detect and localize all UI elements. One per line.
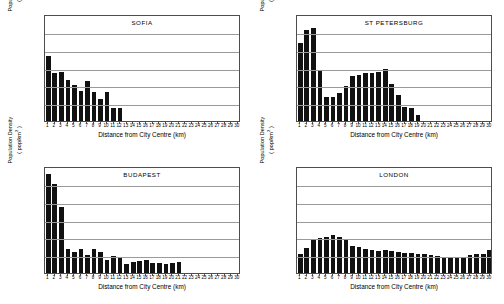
x-axis-tick-mark [132, 274, 133, 276]
x-axis-tick-mark [60, 122, 61, 124]
x-axis-tick-mark [217, 122, 218, 124]
x-axis-tick-mark [211, 122, 212, 124]
plot-area: ST PETERSBURG 050100150200250300 [296, 15, 492, 122]
bar [59, 72, 64, 121]
x-axis-tick-mark [224, 274, 225, 276]
x-axis-tick-mark [345, 122, 346, 124]
y-axis-label-line2: ( pop/km2 ) [14, 0, 22, 28]
x-axis-tick-mark [463, 274, 464, 276]
bar [396, 252, 401, 273]
plot-area: LONDON 050100150200250300 [296, 167, 492, 274]
bar [331, 97, 336, 121]
x-axis-tick-mark [469, 122, 470, 124]
bar [487, 250, 492, 273]
y-axis-tick-mark [44, 87, 45, 88]
bar [52, 73, 57, 121]
x-axis-label: Distance from City Centre (km) [296, 131, 492, 138]
plot-area: BUDAPEST 050100150200250300 [44, 167, 240, 274]
x-axis-tick-mark [306, 122, 307, 124]
figure-page: Population Density ( pop/km2 ) SOFIA 050… [0, 0, 504, 304]
x-axis-ticks: 1234567891011121314151617181920212223242… [296, 123, 492, 131]
bar [98, 99, 103, 121]
x-axis-label: Distance from City Centre (km) [296, 283, 492, 290]
chart-panel-budapest: Population Density ( pop/km2 ) BUDAPEST … [0, 152, 252, 304]
x-axis-tick-mark [47, 274, 48, 276]
y-axis-tick-mark [44, 186, 45, 187]
x-axis-tick-mark [113, 274, 114, 276]
bar [350, 246, 355, 273]
x-axis-tick-mark [410, 274, 411, 276]
x-axis-tick-mark [67, 274, 68, 276]
gridline [297, 239, 491, 240]
bar [370, 250, 375, 273]
y-axis-label-line2: ( pop/km2 ) [266, 0, 274, 28]
x-axis-tick-mark [126, 274, 127, 276]
gridline [45, 204, 239, 205]
x-axis-tick-mark [332, 122, 333, 124]
gridline [297, 204, 491, 205]
gridline [45, 105, 239, 106]
bar [105, 92, 110, 121]
x-axis-tick-mark [73, 122, 74, 124]
x-axis-tick-mark [106, 122, 107, 124]
x-axis-tick-mark [365, 122, 366, 124]
x-axis-tick-mark [358, 274, 359, 276]
x-axis-tick-mark [443, 274, 444, 276]
y-axis-tick-mark [296, 204, 297, 205]
bar [383, 250, 388, 273]
y-axis-tick-label: 0 [296, 120, 297, 122]
x-axis-tick-mark [384, 274, 385, 276]
x-axis-tick-mark [67, 122, 68, 124]
y-axis-tick-mark [44, 16, 45, 17]
x-axis-tick-mark [178, 274, 179, 276]
x-axis-tick-mark [217, 274, 218, 276]
y-axis-label-line1: Population Density [259, 0, 266, 28]
bar [331, 235, 336, 273]
x-axis-tick-mark [86, 274, 87, 276]
bar [170, 263, 175, 273]
bar [150, 263, 155, 273]
x-axis-tick-mark [86, 122, 87, 124]
y-axis-tick-mark [44, 34, 45, 35]
x-axis-tick-mark [93, 274, 94, 276]
chart-panel-london: Population Density ( pop/km2 ) LONDON 05… [252, 152, 504, 304]
y-axis-tick-mark [296, 16, 297, 17]
x-axis-tick-mark [378, 274, 379, 276]
x-axis-tick-mark [476, 122, 477, 124]
y-axis-unit-exponent: 2 [266, 130, 271, 132]
x-axis-tick-mark [404, 122, 405, 124]
x-axis-tick-mark [171, 122, 172, 124]
x-axis-ticks: 1234567891011121314151617181920212223242… [296, 275, 492, 283]
x-axis-tick-mark [230, 122, 231, 124]
gridline [45, 257, 239, 258]
x-axis-tick-mark [365, 274, 366, 276]
x-axis-tick-mark [178, 122, 179, 124]
bar [370, 73, 375, 121]
bar [111, 108, 116, 121]
x-axis-tick-mark [54, 274, 55, 276]
y-axis-tick-mark [296, 52, 297, 53]
x-axis-tick-mark [204, 122, 205, 124]
y-axis-tick-mark [44, 105, 45, 106]
bar [157, 263, 162, 273]
gridline [45, 34, 239, 35]
bar [92, 249, 97, 273]
x-axis-tick-mark [299, 122, 300, 124]
x-axis-tick-mark [489, 274, 490, 276]
x-axis-tick-mark [384, 122, 385, 124]
bar [52, 184, 57, 273]
bar [311, 28, 316, 121]
x-axis-tick-mark [332, 274, 333, 276]
x-axis-tick-mark [378, 122, 379, 124]
x-axis-tick-mark [417, 122, 418, 124]
x-axis-ticks: 1234567891011121314151617181920212223242… [44, 275, 240, 283]
y-axis-tick-mark [296, 168, 297, 169]
x-axis-tick-mark [230, 274, 231, 276]
x-axis-tick-mark [319, 274, 320, 276]
x-axis-tick-mark [469, 274, 470, 276]
x-axis-tick-mark [436, 122, 437, 124]
bar [357, 75, 362, 121]
bar [389, 84, 394, 121]
bar [357, 247, 362, 273]
bar [98, 252, 103, 273]
